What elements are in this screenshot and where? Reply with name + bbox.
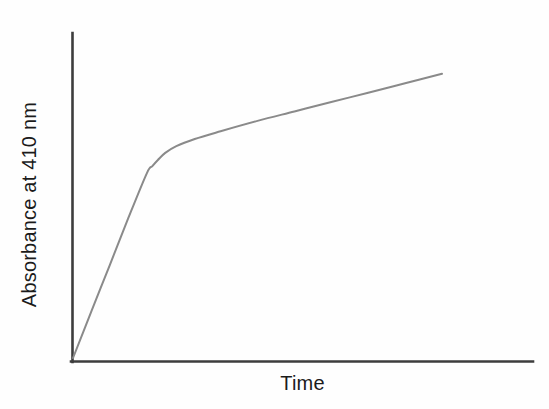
chart-figure: Absorbance at 410 nm Time [0, 0, 549, 409]
y-axis-label: Absorbance at 410 nm [0, 0, 58, 409]
data-series-line [73, 74, 442, 358]
plot-area [0, 0, 549, 409]
x-axis-label: Time [72, 372, 533, 395]
